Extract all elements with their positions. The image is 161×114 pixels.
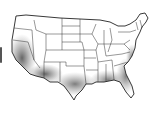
us-map xyxy=(0,0,161,114)
shading-atlantic xyxy=(126,44,138,72)
